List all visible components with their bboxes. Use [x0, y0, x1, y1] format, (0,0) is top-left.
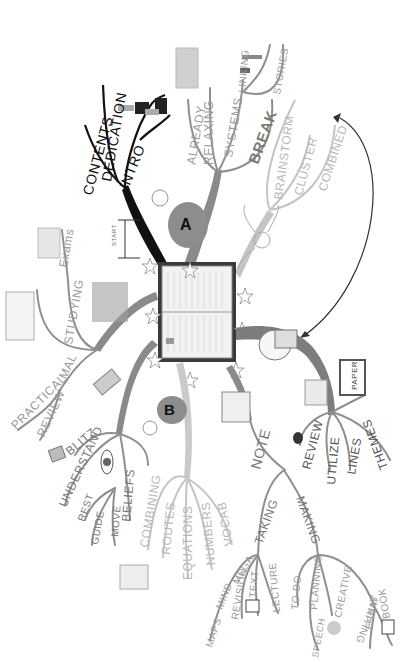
- label-maps: MAPS: [203, 616, 223, 648]
- label-break: BREAK: [245, 108, 280, 166]
- label-routes: ROUTES: [159, 501, 178, 555]
- students-group-icon: [92, 282, 128, 322]
- label-relaxing: RELAXING: [202, 100, 216, 165]
- eye-icon: [293, 432, 303, 444]
- label-studying: STUDYING: [61, 278, 86, 345]
- badge-a: A: [180, 216, 192, 233]
- label-review-right: REVIEW: [299, 418, 326, 470]
- label-move: MOVE: [109, 505, 123, 537]
- label-systems: SYSTEMS: [221, 96, 245, 158]
- sign-figure-icon: [305, 380, 327, 405]
- label-speech: SPEECH: [310, 617, 327, 658]
- tablet-pen-icon: [93, 369, 120, 395]
- label-equations: EQUATIONS: [181, 506, 195, 580]
- chart-image-icon: [176, 48, 198, 88]
- label-text: TEXT: [247, 570, 260, 598]
- brain-books-small-icon: [120, 565, 148, 589]
- label-guide: GUIDE: [89, 510, 106, 546]
- book-icon: [246, 600, 259, 612]
- badge-b: B: [164, 401, 175, 418]
- label-note: NOTE: [247, 427, 273, 471]
- label-paper: PAPER: [350, 361, 359, 390]
- label-making: MAKING: [293, 494, 323, 546]
- brain-books-icon: [222, 392, 250, 422]
- label-taking: TAKING: [252, 497, 281, 546]
- book-icon: [382, 620, 394, 634]
- central-book-icon: [158, 262, 236, 362]
- label-creative: CREATIVE: [332, 564, 354, 618]
- label-combined: COMBINED: [316, 123, 351, 193]
- bubbles-figure-icon: [327, 621, 341, 635]
- label-planning: PLANNING: [308, 554, 324, 610]
- whiteboard-icon: [6, 292, 34, 340]
- label-stories: STORIES: [271, 47, 290, 95]
- label-themes: THEMES: [360, 417, 391, 472]
- arrow-head-top: [333, 113, 341, 123]
- label-utilize: UTILIZE: [324, 436, 342, 485]
- mind-map-canvas: CONTENTS DEDICATION INTRO START A ALREAD…: [0, 0, 400, 662]
- svg-text:START: START: [111, 224, 117, 246]
- label-to-do: TO-DO: [289, 575, 303, 610]
- teacher-figure-icon: [38, 228, 60, 258]
- label-intro: INTRO: [116, 142, 148, 191]
- label-lecture: LECTURE: [267, 562, 282, 613]
- start-marker: START: [111, 220, 140, 258]
- label-vocab: VOCAB: [214, 501, 236, 547]
